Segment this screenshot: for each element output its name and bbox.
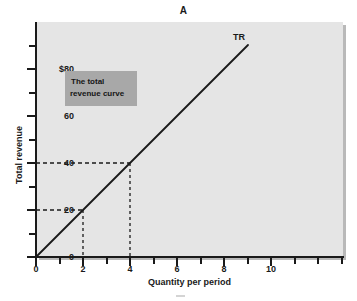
- annotation-line-1: The total: [71, 77, 104, 86]
- figure: A $80 60 40 20 0 0 2 4 6 8 10 Total reve…: [0, 0, 357, 301]
- annotation-line-2: revenue curve: [70, 88, 137, 100]
- series-label-tr: TR: [233, 32, 245, 42]
- chart-overlay: [0, 0, 357, 301]
- annotation-callout: The total revenue curve: [65, 71, 137, 106]
- page-cut-mark: [176, 295, 185, 297]
